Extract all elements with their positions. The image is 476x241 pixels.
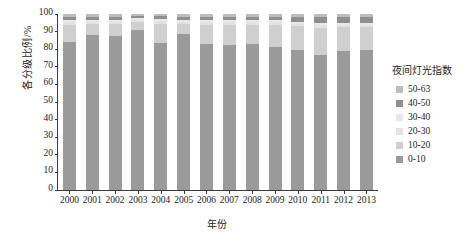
legend-item-label: 10-20 [408, 140, 430, 150]
bar-2009[interactable] [269, 14, 282, 190]
legend-item-40-50[interactable]: 40-50 [396, 96, 476, 110]
x-axis-tick-mark [161, 190, 162, 194]
x-axis-tick-label: 2004 [151, 195, 170, 205]
bar-2008[interactable] [246, 14, 259, 190]
bar-segment-10-20[interactable] [86, 24, 99, 35]
x-axis-tick-2006: 2006 [200, 190, 213, 210]
bar-2006[interactable] [200, 14, 213, 190]
bar-segment-0-10[interactable] [200, 44, 213, 190]
legend: 夜间灯光指数 50-6340-5030-4020-3010-200-10 [392, 62, 476, 166]
bar-segment-0-10[interactable] [291, 50, 304, 190]
x-axis-tick-mark [69, 190, 70, 194]
bar-segment-10-20[interactable] [291, 26, 304, 50]
bar-segment-10-20[interactable] [177, 24, 190, 35]
x-axis-tick-label: 2006 [197, 195, 216, 205]
bar-2010[interactable] [291, 14, 304, 190]
stacked-bar-chart-figure: 各分级比例/% 0102030405060708090100 200020012… [0, 0, 476, 241]
legend-item-20-30[interactable]: 20-30 [396, 124, 476, 138]
x-axis-tick-label: 2012 [334, 195, 353, 205]
bar-segment-0-10[interactable] [246, 44, 259, 190]
x-axis-tick-2002: 2002 [109, 190, 122, 210]
x-axis-tick-label: 2000 [60, 195, 79, 205]
bar-segment-0-10[interactable] [109, 36, 122, 190]
y-axis-tick-label: 70 [23, 60, 53, 70]
x-axis-tick-2010: 2010 [291, 190, 304, 210]
bar-2005[interactable] [177, 14, 190, 190]
x-axis-tick-mark [298, 190, 299, 194]
legend-swatch-icon [396, 142, 403, 149]
bar-2000[interactable] [63, 14, 76, 190]
legend-item-label: 50-63 [408, 84, 430, 94]
x-axis-tick-mark [138, 190, 139, 194]
bar-segment-10-20[interactable] [154, 24, 167, 43]
bar-2007[interactable] [223, 14, 236, 190]
x-axis-tick-2011: 2011 [314, 190, 327, 210]
bar-segment-0-10[interactable] [269, 47, 282, 190]
y-axis-tick-label: 100 [23, 7, 53, 17]
legend-title: 夜间灯光指数 [392, 62, 476, 77]
x-axis-tick-label: 2011 [311, 195, 330, 205]
x-axis-tick-label: 2009 [266, 195, 285, 205]
bar-segment-0-10[interactable] [177, 34, 190, 190]
bar-segment-10-20[interactable] [223, 25, 236, 45]
bar-2012[interactable] [337, 14, 350, 190]
bar-2004[interactable] [154, 14, 167, 190]
x-axis-title: 年份 [57, 216, 377, 231]
y-axis-tick-label: 60 [23, 77, 53, 87]
legend-swatch-icon [396, 86, 403, 93]
bar-segment-0-10[interactable] [314, 55, 327, 190]
legend-swatch-icon [396, 100, 403, 107]
x-axis-tick-2005: 2005 [177, 190, 190, 210]
bar-segment-10-20[interactable] [360, 27, 373, 50]
x-axis-tick-2008: 2008 [246, 190, 259, 210]
y-axis-tick-label: 20 [23, 148, 53, 158]
x-axis-tick-2003: 2003 [131, 190, 144, 210]
x-axis-tick-label: 2005 [174, 195, 193, 205]
bar-segment-0-10[interactable] [223, 45, 236, 190]
x-axis-tick-2000: 2000 [63, 190, 76, 210]
x-axis-tick-2001: 2001 [86, 190, 99, 210]
y-axis-tick-label: 90 [23, 25, 53, 35]
bar-segment-10-20[interactable] [246, 25, 259, 44]
x-axis-tick-mark [115, 190, 116, 194]
legend-item-30-40[interactable]: 30-40 [396, 110, 476, 124]
x-axis-tick-mark [275, 190, 276, 194]
bar-segment-10-20[interactable] [200, 25, 213, 44]
bar-2002[interactable] [109, 14, 122, 190]
bar-segment-0-10[interactable] [86, 35, 99, 190]
bar-segment-10-20[interactable] [109, 24, 122, 36]
x-axis-tick-label: 2001 [83, 195, 102, 205]
bar-2003[interactable] [131, 14, 144, 190]
y-axis-tick-label: 10 [23, 165, 53, 175]
bar-segment-10-20[interactable] [337, 27, 350, 51]
y-axis-tick-label: 50 [23, 95, 53, 105]
x-axis-tick-mark [344, 190, 345, 194]
y-axis-tick-label: 30 [23, 130, 53, 140]
legend-item-50-63[interactable]: 50-63 [396, 82, 476, 96]
legend-item-0-10[interactable]: 0-10 [396, 152, 476, 166]
bar-segment-0-10[interactable] [63, 42, 76, 190]
bar-2013[interactable] [360, 14, 373, 190]
bar-segment-0-10[interactable] [131, 30, 144, 190]
x-axis-tick-2012: 2012 [337, 190, 350, 210]
x-axis-ticks: 2000200120022003200420052006200720082009… [58, 190, 378, 210]
bar-segment-10-20[interactable] [269, 25, 282, 47]
bar-segment-10-20[interactable] [314, 28, 327, 55]
legend-item-10-20[interactable]: 10-20 [396, 138, 476, 152]
legend-item-label: 0-10 [408, 154, 425, 164]
bar-segment-10-20[interactable] [63, 25, 76, 43]
x-axis-tick-2007: 2007 [223, 190, 236, 210]
bar-segment-10-20[interactable] [131, 22, 144, 30]
x-axis-tick-label: 2008 [243, 195, 262, 205]
bar-segment-0-10[interactable] [154, 43, 167, 190]
bar-2011[interactable] [314, 14, 327, 190]
x-axis-tick-mark [92, 190, 93, 194]
x-axis-tick-2013: 2013 [360, 190, 373, 210]
x-axis-tick-mark [206, 190, 207, 194]
bar-2001[interactable] [86, 14, 99, 190]
legend-swatch-icon [396, 128, 403, 135]
bar-segment-0-10[interactable] [360, 50, 373, 190]
x-axis-tick-mark [321, 190, 322, 194]
x-axis-tick-label: 2013 [357, 195, 376, 205]
bar-segment-0-10[interactable] [337, 51, 350, 190]
